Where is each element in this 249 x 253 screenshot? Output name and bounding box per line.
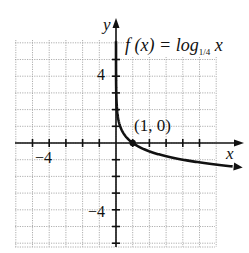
curve-arrow-icon [233,163,242,171]
y-tick-label-neg4: −4 [88,204,105,220]
function-base: 1/4 [199,47,211,57]
function-var: x [215,35,223,55]
log-curve [116,41,233,166]
function-label: f (x) = log1/4 x [124,36,224,57]
y-axis-label: y [103,16,111,33]
function-prefix: f (x) = log [125,35,199,55]
point-label: (1, 0) [134,117,171,134]
x-tick-label-neg4: −4 [35,150,52,166]
point-1-0 [130,140,136,146]
x-axis-label: x [226,145,234,162]
y-tick-label-4: 4 [97,67,105,83]
